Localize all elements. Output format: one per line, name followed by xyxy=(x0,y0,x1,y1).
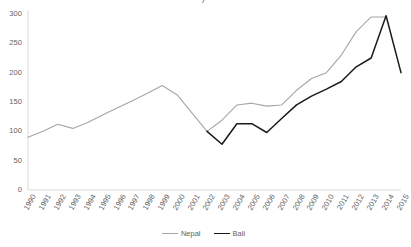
y-tick-0: 0 xyxy=(0,186,22,194)
legend-label-nepal: Nepal xyxy=(181,229,201,238)
series-line-bali xyxy=(207,16,401,144)
y-tick-200: 200 xyxy=(0,69,22,77)
y-tick-50: 50 xyxy=(0,157,22,165)
legend-swatch-bali-icon xyxy=(214,233,230,234)
y-tick-150: 150 xyxy=(0,98,22,106)
legend-label-bali: Bali xyxy=(233,229,246,238)
y-tick-250: 250 xyxy=(0,39,22,47)
axis-lines xyxy=(28,10,401,190)
legend-item-nepal[interactable]: Nepal xyxy=(162,229,201,238)
series-line-nepal xyxy=(28,17,386,137)
chart-legend: NepalBali xyxy=(0,229,407,238)
legend-item-bali[interactable]: Bali xyxy=(214,229,246,238)
y-tick-300: 300 xyxy=(0,10,22,18)
y-tick-100: 100 xyxy=(0,127,22,135)
series-paths xyxy=(28,16,401,144)
legend-swatch-nepal-icon xyxy=(162,233,178,234)
